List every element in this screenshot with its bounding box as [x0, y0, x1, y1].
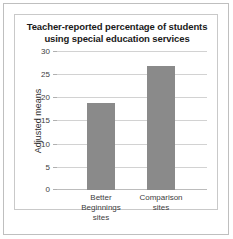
y-tick-label-0: 0: [46, 185, 50, 194]
y-tick-0: [53, 189, 57, 190]
y-tick-label-25: 25: [41, 70, 50, 79]
y-tick-30: [53, 51, 57, 52]
y-tick-25: [53, 74, 57, 75]
x-tick-label-comparison-sites: Comparison sites: [125, 193, 197, 213]
gridline-0-axis: 0: [57, 189, 207, 190]
gridline-20: 20: [57, 97, 207, 98]
gridline-15: 15: [57, 120, 207, 121]
figure-outer-border: Teacher-reported percentage of students …: [3, 3, 229, 235]
y-tick-label-15: 15: [41, 116, 50, 125]
y-tick-label-10: 10: [41, 140, 50, 149]
y-tick-label-20: 20: [41, 93, 50, 102]
bar-better-beginnings-sites: [87, 103, 115, 190]
chart-title-line-1: Teacher-reported percentage of students: [21, 21, 213, 33]
plot-area: 30 25 20 15 10 5: [57, 51, 207, 190]
gridline-25: 25: [57, 74, 207, 75]
x-tick-label-1-line-2: sites: [125, 203, 197, 213]
chart-title-line-2: using special education services: [21, 33, 213, 45]
x-tick-label-0-line-3: sites: [61, 213, 141, 223]
y-tick-label-5: 5: [46, 163, 50, 172]
x-tick-label-1-line-1: Comparison: [125, 193, 197, 203]
y-tick-5: [53, 167, 57, 168]
y-tick-15: [53, 120, 57, 121]
y-tick-20: [53, 97, 57, 98]
chart-frame: Teacher-reported percentage of students …: [14, 14, 218, 210]
chart-title: Teacher-reported percentage of students …: [21, 21, 213, 45]
y-tick-10: [53, 144, 57, 145]
y-tick-label-30: 30: [41, 47, 50, 56]
gridline-10: 10: [57, 144, 207, 145]
gridline-30: 30: [57, 51, 207, 52]
bar-comparison-sites: [147, 66, 175, 190]
gridline-5: 5: [57, 167, 207, 168]
